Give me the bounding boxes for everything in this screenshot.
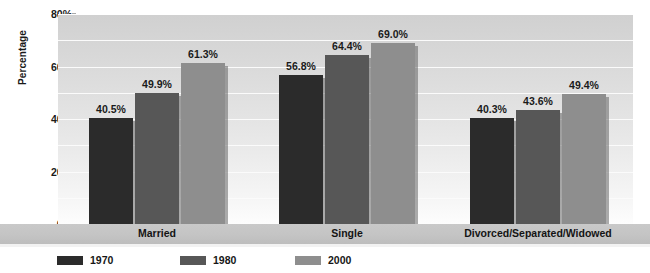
legend-label: 2000 [328, 254, 351, 266]
bar-1970-single [279, 75, 323, 224]
bar-2000-single [371, 43, 415, 224]
category-label: Single [331, 227, 363, 239]
bar-value-label: 64.4% [332, 40, 362, 52]
legend-label: 1970 [90, 254, 113, 266]
bar-chart: Percentage 0%20%40%60%80% 197019802000 4… [0, 0, 650, 273]
bar-value-label: 69.0% [378, 28, 408, 40]
bar-value-label: 49.4% [569, 79, 599, 91]
bar-value-label: 49.9% [142, 78, 172, 90]
category-label: Divorced/Separated/Widowed [464, 227, 612, 239]
chart-legend: 197019802000 [0, 253, 650, 269]
legend-label: 1980 [213, 254, 236, 266]
bar-1970-divorced-separated-widowed [470, 118, 514, 224]
bar-1980-single [325, 55, 369, 224]
legend-swatch-icon [295, 256, 321, 265]
legend-item-2000[interactable]: 2000 [295, 253, 351, 267]
legend-item-1970[interactable]: 1970 [57, 253, 113, 267]
legend-item-1980[interactable]: 1980 [180, 253, 236, 267]
bar-value-label: 56.8% [286, 60, 316, 72]
bar-2000-divorced-separated-widowed [562, 94, 606, 224]
bar-shadow [415, 46, 418, 224]
bar-value-label: 61.3% [188, 48, 218, 60]
bar-shadow [225, 66, 228, 224]
category-axis-underline [0, 244, 650, 247]
category-label: Married [138, 227, 176, 239]
bar-1980-married [135, 93, 179, 224]
bar-value-label: 40.3% [477, 103, 507, 115]
bar-shadow [606, 97, 609, 224]
bar-value-label: 40.5% [96, 103, 126, 115]
bar-1980-divorced-separated-widowed [516, 110, 560, 224]
bar-1970-married [89, 118, 133, 224]
legend-swatch-icon [180, 256, 206, 265]
legend-swatch-icon [57, 256, 83, 265]
bar-value-label: 43.6% [523, 95, 553, 107]
plot-top-edge [58, 14, 633, 15]
bar-2000-married [181, 63, 225, 224]
